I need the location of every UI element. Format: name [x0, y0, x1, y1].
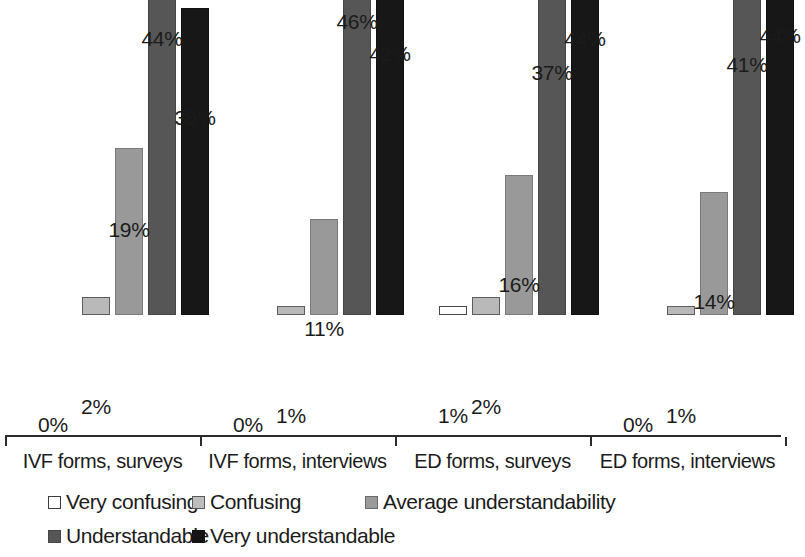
x-axis-tick — [200, 437, 202, 446]
legend-label-very-confusing: Very confusing — [66, 491, 198, 513]
bar-value-label: 44% — [752, 25, 805, 46]
x-axis-tick — [5, 437, 7, 446]
category-label: ED forms, surveys — [395, 449, 590, 473]
category-label: IVF forms, interviews — [200, 449, 395, 473]
bar — [310, 219, 338, 315]
bar-value-label: 19% — [101, 219, 157, 240]
chart-legend: Very confusing Confusing Average underst… — [0, 484, 784, 557]
bar-value-label: 2% — [458, 396, 514, 417]
bar-value-label: 1% — [653, 405, 709, 426]
bar — [472, 297, 500, 315]
legend-item-confusing: Confusing — [192, 491, 301, 513]
bar-value-label: 1% — [263, 405, 319, 426]
bar-value-label: 46% — [329, 11, 385, 32]
bar-value-label: 35% — [167, 107, 223, 128]
bar — [439, 306, 467, 315]
legend-label-confusing: Confusing — [210, 491, 301, 513]
bar-value-label: 37% — [524, 62, 580, 83]
bar — [277, 306, 305, 315]
bar-value-label: 11% — [296, 318, 352, 339]
legend-swatch-icon-average-understandability — [365, 496, 378, 509]
bar-value-label: 41% — [719, 54, 775, 75]
bar-value-label: 2% — [68, 396, 124, 417]
legend-item-very-confusing: Very confusing — [48, 491, 198, 513]
bar-value-label: 14% — [686, 291, 742, 312]
legend-item-very-understandable: Very understandable — [192, 525, 395, 547]
legend-swatch-icon-very-confusing — [48, 496, 61, 509]
legend-label-understandable: Understandable — [66, 525, 209, 547]
x-axis-tick — [590, 437, 592, 446]
legend-swatch-icon-very-understandable — [192, 530, 205, 543]
bar-value-label: 42% — [362, 43, 418, 64]
x-axis-tick — [785, 437, 787, 446]
category-label: ED forms, interviews — [590, 449, 785, 473]
legend-label-very-understandable: Very understandable — [210, 525, 395, 547]
plot-area: 0%2%19%44%35%0%1%11%46%42%1%2%16%37%44%0… — [0, 0, 784, 437]
legend-swatch-icon-understandable — [48, 530, 61, 543]
bar — [181, 8, 209, 315]
legend-label-average-understandability: Average understandability — [383, 491, 615, 513]
legend-swatch-icon-confusing — [192, 496, 205, 509]
bar-value-label: 44% — [134, 28, 190, 49]
bar-value-label: 16% — [491, 274, 547, 295]
legend-item-understandable: Understandable — [48, 525, 209, 547]
x-axis-line — [5, 435, 781, 437]
legend-item-average-understandability: Average understandability — [365, 491, 615, 513]
bar-value-label: 44% — [557, 28, 613, 49]
bar — [766, 0, 794, 315]
bar — [82, 297, 110, 315]
bar — [733, 0, 761, 315]
x-axis-tick — [395, 437, 397, 446]
category-label: IVF forms, surveys — [5, 449, 200, 473]
